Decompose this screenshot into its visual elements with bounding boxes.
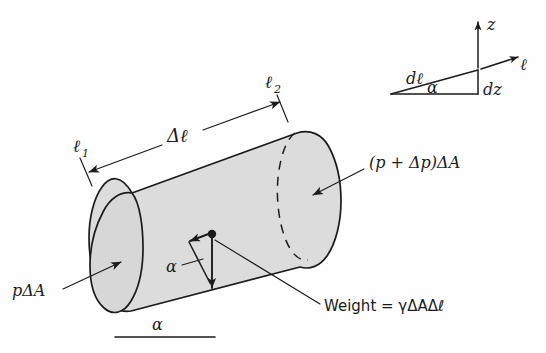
delta-ell-arrow-right: [203, 102, 280, 130]
ell1-subscript: 1: [82, 147, 89, 160]
fluid-element-cylinder: [89, 132, 341, 313]
inset-angle-label: α: [427, 78, 438, 97]
inset-vertical-label: dz: [483, 80, 502, 99]
weight-label: Weight = γΔAΔℓ: [324, 297, 444, 315]
inset-ell-axis-arrow: [481, 57, 518, 69]
inset-hypotenuse-label: dℓ: [406, 69, 423, 88]
inset-z-axis-label: z: [486, 15, 496, 34]
ell1-label-group: ℓ 1: [73, 136, 89, 160]
alpha-vector-label: α: [166, 257, 177, 276]
delta-ell-arrow-left: [89, 145, 162, 172]
diagram-canvas: ℓ 1 ℓ 2 Δℓ pΔA (p + Δp)ΔA Weight = γΔAΔℓ…: [0, 0, 546, 353]
ell2-label-group: ℓ 2: [265, 72, 281, 96]
fluid-element-diagram: ℓ 1 ℓ 2 Δℓ pΔA (p + Δp)ΔA Weight = γΔAΔℓ…: [0, 0, 546, 353]
ell2-label: ℓ: [265, 72, 272, 92]
delta-ell-label: Δℓ: [166, 125, 188, 146]
pressure-right-label: (p + Δp)ΔA: [369, 153, 460, 172]
ell2-subscript: 2: [273, 83, 281, 96]
inset-ell-axis-label: ℓ: [520, 55, 527, 74]
ell1-label: ℓ: [73, 136, 80, 156]
ell2-tick: [277, 95, 288, 122]
pressure-left-label: pΔA: [12, 281, 45, 300]
alpha-base-label: α: [152, 315, 163, 334]
